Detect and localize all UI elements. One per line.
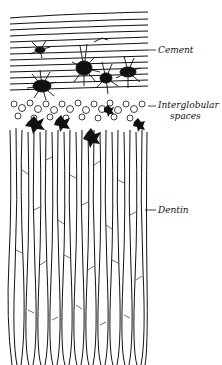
label-dentin: Dentin — [158, 205, 189, 215]
cement-layer — [10, 12, 148, 90]
interglobular-band — [11, 100, 145, 121]
dentin-tubules — [8, 128, 147, 365]
interglobular-dark-spots — [25, 105, 145, 148]
label-cement: Cement — [158, 45, 194, 55]
label-interglobular-line2: spaces — [170, 111, 201, 121]
dentin-tubule-branches — [16, 157, 142, 325]
label-interglobular-line1: Interglobular — [158, 100, 219, 110]
